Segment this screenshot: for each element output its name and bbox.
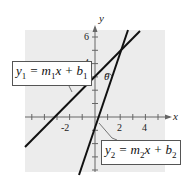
- angle-theta-label: θ: [104, 70, 109, 82]
- eq-part: x + b: [144, 142, 172, 157]
- x-tick-label: 2: [117, 122, 122, 133]
- eq-part: = m: [115, 142, 140, 157]
- x-tick-label: -2: [61, 122, 69, 133]
- eq-part: = m: [26, 63, 51, 78]
- eq-sub: 2: [172, 150, 177, 160]
- line-1-equation-label: y1 = m1x + b1: [12, 61, 92, 86]
- x-tick-label: 4: [142, 122, 147, 133]
- x-axis-arrow: [165, 115, 172, 120]
- y-axis-arrow: [93, 25, 98, 32]
- y-tick-label: 6: [84, 31, 89, 42]
- eq-sub: 1: [83, 71, 88, 81]
- line-2-equation-label: y2 = m2x + b2: [101, 140, 181, 165]
- eq-part: x + b: [55, 63, 83, 78]
- x-axis-label: x: [173, 110, 178, 122]
- y-axis-label: y: [99, 12, 104, 24]
